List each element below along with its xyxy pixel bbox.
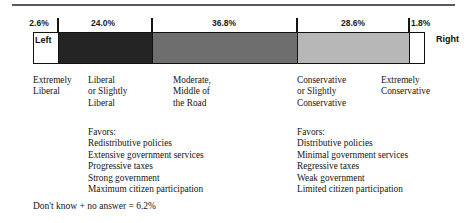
tick-mark-4 bbox=[408, 18, 410, 32]
category-label-extremely-liberal: Extremely Liberal bbox=[33, 75, 87, 98]
bar-segment-moderate bbox=[152, 33, 297, 63]
favors-conservative-item-5: Limited citizen participation bbox=[297, 184, 408, 195]
bar-segment-conservative bbox=[297, 33, 409, 63]
bar-right-endpoint-label: Right bbox=[436, 34, 459, 44]
percent-label-extremely-conservative: 1.8% bbox=[411, 18, 457, 28]
favors-liberal-item-2: Extensive government services bbox=[88, 150, 204, 161]
bar-segment-extremely-conservative bbox=[409, 33, 424, 63]
favors-liberal-item-4: Strong government bbox=[88, 173, 204, 184]
percentage-label-row: 2.6% 24.0% 36.8% 28.6% 1.8% bbox=[33, 18, 425, 32]
stacked-bar-chart: 2.6% 24.0% 36.8% 28.6% 1.8% Left Right bbox=[33, 18, 425, 64]
favors-list-conservative: Favors: Distributive policies Minimal go… bbox=[297, 127, 408, 195]
category-label-moderate-middle-of-the-road: Moderate, Middle of the Road bbox=[173, 75, 243, 109]
percent-label-moderate: 36.8% bbox=[152, 18, 296, 28]
tick-mark-1 bbox=[57, 18, 59, 32]
percent-label-conservative: 28.6% bbox=[297, 18, 409, 28]
ideology-bar: Left bbox=[33, 32, 425, 64]
favors-conservative-item-2: Minimal government services bbox=[297, 150, 408, 161]
percent-label-liberal: 24.0% bbox=[53, 18, 153, 28]
bar-left-endpoint-label: Left bbox=[35, 35, 52, 45]
tick-mark-2 bbox=[151, 18, 153, 32]
favors-liberal-item-5: Maximum citizen participation bbox=[88, 184, 204, 195]
favors-liberal-item-1: Redistributive policies bbox=[88, 138, 204, 149]
category-label-conservative-or-slightly-conservative: Conservative or Slightly Conservative bbox=[297, 75, 375, 109]
favors-liberal-item-3: Progressive taxes bbox=[88, 161, 204, 172]
favors-list-liberal: Favors: Redistributive policies Extensiv… bbox=[88, 127, 204, 195]
favors-liberal-title: Favors: bbox=[88, 127, 204, 138]
favors-conservative-title: Favors: bbox=[297, 127, 408, 138]
tick-mark-3 bbox=[296, 18, 298, 32]
bar-segment-extremely-liberal: Left bbox=[34, 33, 58, 63]
category-label-liberal-or-slightly-liberal: Liberal or Slightly Liberal bbox=[88, 75, 150, 109]
ideology-distribution-figure: 2.6% 24.0% 36.8% 28.6% 1.8% Left Right E… bbox=[0, 0, 467, 223]
favors-conservative-item-4: Weak government bbox=[297, 173, 408, 184]
favors-conservative-item-1: Distributive policies bbox=[297, 138, 408, 149]
footnote-dont-know: Don't know + no answer = 6.2% bbox=[33, 201, 156, 211]
bar-segment-liberal bbox=[58, 33, 152, 63]
top-divider-rule bbox=[12, 4, 455, 6]
favors-conservative-item-3: Regressive taxes bbox=[297, 161, 408, 172]
category-label-extremely-conservative: Extremely Conservative bbox=[381, 75, 461, 98]
